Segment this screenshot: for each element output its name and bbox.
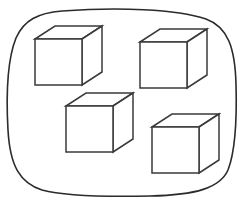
cube-1-front-face <box>35 39 82 85</box>
cube-3-front-face <box>66 106 113 152</box>
cube-2-front-face <box>140 42 187 88</box>
cube-1[interactable] <box>35 26 102 85</box>
line-drawing-figure <box>0 0 247 210</box>
cube-2[interactable] <box>140 29 207 88</box>
cube-4[interactable] <box>152 114 219 173</box>
cube-3[interactable] <box>66 93 133 152</box>
cube-4-front-face <box>152 127 199 173</box>
figure-canvas <box>0 0 247 210</box>
